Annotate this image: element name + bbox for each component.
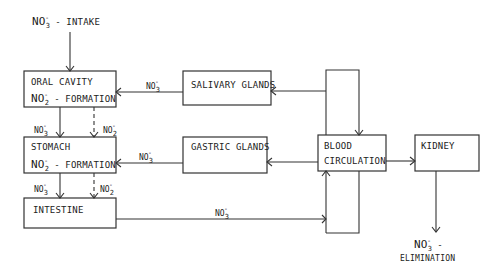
label-elimination-formula: NO3- - [414, 238, 443, 253]
diagram-canvas [0, 0, 485, 280]
edge-label-gastric-to-stomach: NO3- [139, 150, 152, 165]
label-oral-formation: NO2- - FORMATION [31, 92, 116, 107]
loop-blood-bottom [326, 171, 359, 233]
arrowhead-icon [90, 132, 98, 137]
label-blood: BLOOD [324, 142, 352, 151]
edge-label-oral-to-stomach-nitrite: NO2- [103, 123, 116, 138]
label-oral-cavity: ORAL CAVITY [31, 78, 93, 87]
label-stomach-formation: NO2- - FORMATION [31, 158, 116, 173]
label-stomach: STOMACH [31, 143, 70, 152]
loop-blood-top [326, 70, 359, 135]
label-intake: NO3- - INTAKE [32, 15, 100, 30]
label-kidney: KIDNEY [421, 142, 455, 151]
edge-label-stomach-to-intestine-nitrite: NO2- [100, 182, 113, 197]
label-gastric-glands: GASTRIC GLANDS [191, 143, 270, 152]
label-salivary-glands: SALIVARY GLANDS [191, 81, 275, 90]
edge-label-intestine-to-blood: NO3- [215, 206, 228, 221]
edge-label-stomach-to-intestine-nitrate: NO3- [34, 182, 47, 197]
label-intestine: INTESTINE [33, 206, 84, 215]
label-elimination: ELIMINATION [400, 255, 455, 263]
edge-label-oral-to-stomach-nitrate: NO3- [34, 123, 47, 138]
edge-label-salivary-to-oral: NO3- [146, 79, 159, 94]
label-circulation: CIRCULATION [324, 157, 386, 166]
